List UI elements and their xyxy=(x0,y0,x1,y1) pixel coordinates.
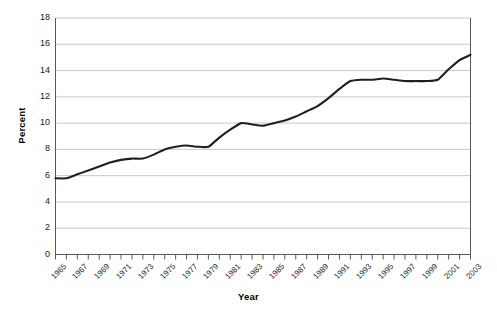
gridlines xyxy=(56,18,471,228)
data-series-line xyxy=(56,55,471,179)
x-axis-minor-ticks xyxy=(56,255,471,260)
x-axis-title: Year xyxy=(0,291,497,302)
line-chart: Percent 024681012141618 1965196719691971… xyxy=(0,0,497,316)
